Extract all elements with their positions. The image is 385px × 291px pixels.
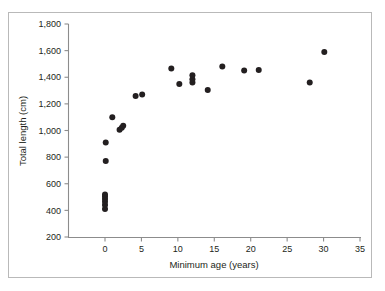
y-tick-label: 800 <box>46 152 61 162</box>
x-tick-label: 20 <box>246 244 256 254</box>
x-tick-label: 25 <box>282 244 292 254</box>
data-point <box>120 123 126 129</box>
y-tick-label: 600 <box>46 179 61 189</box>
x-tick-label: 30 <box>319 244 329 254</box>
data-point <box>102 191 108 197</box>
y-tick-label: 1,200 <box>38 99 61 109</box>
y-axis-title: Total length (cm) <box>17 96 28 166</box>
data-point <box>176 81 182 87</box>
data-point <box>103 158 109 164</box>
data-point <box>133 93 139 99</box>
data-point <box>168 66 174 72</box>
data-point <box>321 49 327 55</box>
data-point <box>256 67 262 73</box>
data-point <box>205 87 211 93</box>
scatter-plot: 2004006008001,0001,2001,4001,6001,800 05… <box>0 0 385 291</box>
y-axis-ticks: 2004006008001,0001,2001,4001,6001,800 <box>38 19 68 242</box>
x-tick-label: 5 <box>139 244 144 254</box>
data-point <box>241 68 247 74</box>
y-tick-label: 1,600 <box>38 46 61 56</box>
x-tick-label: 15 <box>209 244 219 254</box>
x-tick-label: 0 <box>102 244 107 254</box>
y-tick-label: 1,400 <box>38 72 61 82</box>
axis-spines <box>68 24 361 238</box>
data-point <box>103 139 109 145</box>
data-point-group <box>102 49 327 212</box>
figure: 2004006008001,0001,2001,4001,6001,800 05… <box>0 0 385 291</box>
y-tick-label: 1,000 <box>38 126 61 136</box>
data-point <box>109 114 115 120</box>
y-tick-label: 400 <box>46 206 61 216</box>
data-point <box>307 80 313 86</box>
x-tick-label: 35 <box>355 244 365 254</box>
x-axis-title: Minimum age (years) <box>169 259 258 270</box>
x-tick-label: 10 <box>173 244 183 254</box>
y-tick-label: 200 <box>46 232 61 242</box>
data-point <box>189 72 195 78</box>
y-tick-label: 1,800 <box>38 19 61 29</box>
x-axis-ticks: 05101520253035 <box>102 238 365 255</box>
data-point <box>139 92 145 98</box>
data-point <box>219 64 225 70</box>
